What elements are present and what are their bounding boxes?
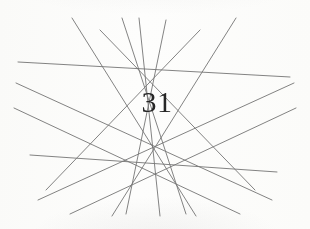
figure-number-label: 31 bbox=[0, 86, 310, 118]
figure-line bbox=[70, 108, 296, 214]
figure-canvas: 31 bbox=[0, 0, 310, 229]
figure-line bbox=[14, 108, 240, 214]
figure-number-text: 31 bbox=[142, 86, 173, 118]
figure-line bbox=[18, 62, 290, 77]
